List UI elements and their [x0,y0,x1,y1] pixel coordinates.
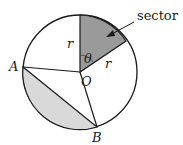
sector-label: sector [137,8,179,23]
angle-label: θ [84,51,92,66]
point-a-label: A [8,59,18,74]
point-b-label: B [91,130,102,145]
circle-sector-diagram: sector r r θ O A B [0,0,183,145]
radius-label-side: r [105,56,112,71]
center-label: O [81,74,92,89]
radius-label-top: r [67,36,74,51]
